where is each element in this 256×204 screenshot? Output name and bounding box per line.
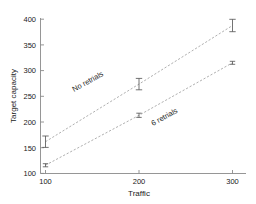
y-axis-ticks: [41, 19, 45, 173]
x-axis-ticks: [46, 170, 233, 174]
y-tick-label-300: 300: [23, 66, 36, 75]
y-tick-label-100: 100: [23, 169, 36, 178]
series-annotation-no-retrials: No retrials: [71, 69, 105, 94]
x-tick-label-200: 200: [133, 177, 146, 186]
x-axis-title: Traffic: [128, 189, 150, 198]
y-tick-label-350: 350: [23, 41, 36, 50]
chart-canvas: 400 350 300 250 200 150 100 100 200 300 …: [0, 0, 256, 204]
y-tick-label-200: 200: [23, 118, 36, 127]
y-axis-title: Target capacity: [9, 69, 18, 123]
x-tick-label-300: 300: [226, 177, 239, 186]
x-tick-label-100: 100: [39, 177, 52, 186]
chart-figure: 400 350 300 250 200 150 100 100 200 300 …: [0, 0, 256, 204]
y-tick-label-250: 250: [23, 92, 36, 101]
y-tick-label-400: 400: [23, 15, 36, 24]
series-errorbars-no-retrials: [42, 19, 235, 147]
y-tick-label-150: 150: [23, 144, 36, 153]
series-annotation-6-retrials: 6 retrials: [150, 106, 180, 128]
